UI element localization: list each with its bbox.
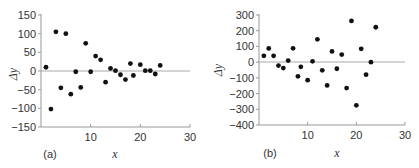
data-point [330, 49, 335, 54]
data-point [128, 61, 133, 66]
y-tick-label: −200 [229, 88, 254, 100]
data-point [58, 85, 63, 90]
data-points-b [261, 19, 378, 108]
panel-label-a: (a) [43, 148, 56, 160]
data-point [93, 54, 98, 59]
data-point [271, 53, 276, 58]
y-tick-label: −50 [17, 84, 36, 96]
x-axis-label-a: x [111, 147, 118, 161]
data-point [325, 83, 330, 88]
data-point [315, 37, 320, 42]
y-tick-label: −100 [229, 72, 254, 84]
data-point [296, 74, 301, 79]
data-point [364, 72, 369, 77]
x-tick-label: 20 [134, 131, 146, 143]
x-tick-label: 10 [85, 131, 97, 143]
data-point [78, 85, 83, 90]
data-point [153, 72, 158, 77]
data-points-a [44, 29, 163, 111]
x-tick-label: 10 [302, 129, 314, 141]
data-point [63, 31, 68, 36]
data-point [148, 68, 153, 73]
data-point [305, 78, 310, 83]
data-point [103, 80, 108, 85]
data-point [281, 66, 286, 71]
data-point [68, 92, 73, 97]
data-point [286, 58, 291, 63]
data-point [49, 107, 54, 112]
y-tick-label: −100 [11, 102, 36, 114]
figure: 150100500−50−100−150 102030 Δy x (a) 300… [0, 0, 419, 168]
y-tick-label: 200 [236, 25, 254, 37]
data-point [359, 46, 364, 51]
data-point [310, 59, 315, 64]
data-point [354, 103, 359, 108]
data-point [298, 64, 303, 69]
y-tick-label: 0 [30, 65, 36, 77]
data-point [98, 57, 103, 62]
y-tick-label: 100 [18, 28, 36, 40]
data-point [334, 66, 339, 71]
data-point [339, 52, 344, 57]
y-tick-label: 150 [18, 9, 36, 21]
data-point [158, 63, 163, 68]
data-point [54, 29, 59, 34]
data-point [291, 46, 296, 51]
x-tick-label: 30 [399, 129, 411, 141]
data-point [131, 73, 136, 78]
data-point [349, 19, 354, 24]
data-point [373, 25, 378, 30]
y-axis-label-b: Δy [211, 63, 225, 77]
y-tick-label: −150 [11, 121, 36, 133]
data-point [88, 69, 93, 74]
y-tick-label: −400 [229, 119, 254, 131]
x-tick-label: 20 [350, 129, 362, 141]
data-point [108, 66, 113, 71]
data-point [344, 86, 349, 91]
data-point [261, 53, 266, 58]
y-tick-label: 100 [236, 40, 254, 52]
data-point [276, 63, 281, 68]
y-tick-label: 0 [248, 56, 254, 68]
data-point [123, 77, 128, 82]
data-point [44, 65, 49, 70]
data-point [143, 68, 148, 73]
x-axis-label-b: x [333, 146, 340, 160]
data-point [118, 72, 123, 77]
y-tick-label: 50 [24, 46, 36, 58]
chart-panel-b: 3002001000−100−200−300−400 102030 Δy x (… [211, 9, 411, 160]
data-point [369, 60, 374, 65]
data-point [138, 62, 143, 67]
data-point [83, 41, 88, 46]
data-point [113, 68, 118, 73]
y-tick-label: 300 [236, 9, 254, 21]
x-tick-label: 30 [184, 131, 196, 143]
data-point [73, 69, 78, 74]
y-ticks-b: 3002001000−100−200−300−400 [229, 9, 259, 131]
y-tick-label: −300 [229, 103, 254, 115]
chart-panel-a: 150100500−50−100−150 102030 Δy x (a) [6, 9, 196, 161]
data-point [266, 46, 271, 51]
data-point [320, 68, 325, 73]
y-axis-label-a: Δy [6, 67, 20, 81]
panel-label-b: (b) [263, 147, 276, 159]
